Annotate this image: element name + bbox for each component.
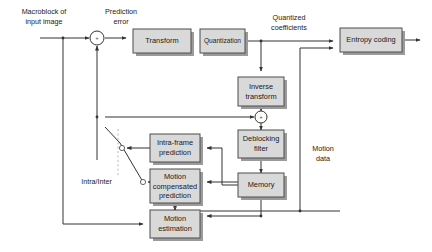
block-quantization[interactable]: Quantization	[200, 29, 248, 56]
block-intra-frame-prediction-label-line2: prediction	[159, 148, 191, 157]
block-entropy-coding[interactable]: Entropy coding	[340, 28, 405, 55]
block-mcp-label-line2: compensated	[153, 182, 197, 191]
block-inverse-transform-label-line1: Inverse	[249, 82, 273, 91]
block-motion-estimation-label-line1: Motion	[164, 214, 186, 223]
block-mcp-label-line3: prediction	[159, 191, 191, 200]
block-inverse-transform[interactable]: Inverse transform	[238, 77, 287, 109]
adder-reconstruction-sign: +	[259, 114, 262, 120]
junction-input-branch	[62, 37, 65, 40]
annotation-macroblock-line1: Macroblock of	[22, 7, 67, 16]
switch-node-intra[interactable]	[119, 145, 124, 150]
wire-input-branch-to-motion-estimation	[63, 38, 143, 224]
annotation-quantized-coefficients-line1: Quantized	[273, 13, 306, 22]
block-deblocking-filter-label-line2: filter	[254, 144, 269, 153]
junction-quantized-coefficients	[260, 40, 263, 43]
annotation-macroblock-line2: input image	[25, 17, 62, 26]
block-mcp-label-line1: Motion	[164, 172, 186, 181]
block-deblocking-filter[interactable]: Deblocking filter	[238, 130, 287, 161]
annotation-intra-inter: Intra/Inter	[81, 177, 112, 186]
diagram-canvas: + + Transform Quantization	[0, 0, 432, 252]
wire-motion-data-to-entropy	[300, 48, 333, 200]
annotation-prediction-error-line1: Prediction	[105, 7, 137, 16]
block-memory[interactable]: Memory	[238, 173, 287, 200]
block-layer: Transform Quantization Entropy coding In…	[133, 28, 405, 241]
annotation-prediction-error-line2: error	[113, 17, 129, 26]
video-encoder-diagram: + + Transform Quantization	[0, 0, 432, 252]
block-intra-frame-prediction-label-line1: Intra-frame	[157, 138, 193, 147]
wire-memory-to-intra-prediction	[207, 148, 238, 185]
junction-prediction-bus	[96, 116, 99, 119]
block-motion-compensated-prediction[interactable]: Motion compensated prediction	[150, 169, 203, 206]
adder-prediction-error-sign: +	[95, 35, 98, 41]
block-quantization-label: Quantization	[204, 37, 241, 45]
block-inverse-transform-label-line2: transform	[245, 92, 276, 101]
switch-node-inter[interactable]	[140, 179, 145, 184]
annotation-quantized-coefficients-line2: coefficients	[271, 23, 307, 32]
junction-memory-out	[260, 215, 263, 218]
block-entropy-coding-label: Entropy coding	[346, 35, 395, 44]
block-deblocking-filter-label-line1: Deblocking	[243, 134, 280, 143]
block-transform[interactable]: Transform	[133, 29, 194, 56]
block-motion-estimation[interactable]: Motion estimation	[150, 210, 203, 241]
block-motion-estimation-label-line2: estimation	[158, 224, 192, 233]
annotation-motion-data-line2: data	[316, 154, 330, 163]
block-transform-label: Transform	[145, 36, 178, 45]
wire-switch-lever	[105, 127, 143, 182]
block-intra-frame-prediction[interactable]: Intra-frame prediction	[150, 134, 203, 165]
block-memory-label: Memory	[248, 180, 275, 189]
annotation-motion-data-line1: Motion	[312, 144, 334, 153]
junction-motion-data-bus	[299, 210, 302, 213]
wire-layer	[40, 37, 420, 224]
